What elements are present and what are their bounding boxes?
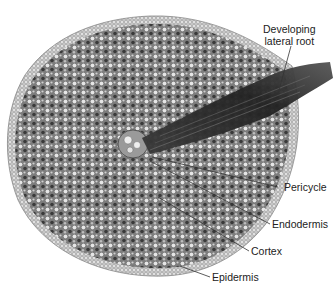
label-developing-line2: lateral root bbox=[263, 35, 316, 47]
label-endodermis: Endodermis bbox=[272, 218, 328, 230]
label-cortex: Cortex bbox=[251, 245, 282, 257]
vascular-cylinder bbox=[118, 130, 148, 158]
label-epidermis: Epidermis bbox=[212, 271, 259, 283]
label-developing-lateral-root: Developing lateral root bbox=[263, 23, 316, 47]
label-developing-line1: Developing bbox=[263, 23, 316, 35]
label-pericycle: Pericycle bbox=[284, 181, 327, 193]
